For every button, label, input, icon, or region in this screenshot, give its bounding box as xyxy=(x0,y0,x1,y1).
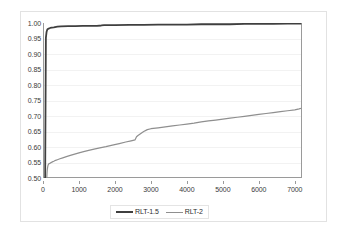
x-axis-tick-mark xyxy=(43,181,44,184)
y-axis-tick-label: 0.55 xyxy=(17,159,41,166)
series-line xyxy=(45,24,301,178)
x-axis-tick-mark xyxy=(187,181,188,184)
x-axis-tick-mark xyxy=(115,181,116,184)
y-axis-tick-label: 1.00 xyxy=(17,20,41,27)
y-axis-tick-label: 0.90 xyxy=(17,51,41,58)
x-axis-tick-mark xyxy=(79,181,80,184)
x-axis-tick-label: 5000 xyxy=(215,186,230,194)
y-axis-tick-label: 0.85 xyxy=(17,66,41,73)
y-axis-tick-label: 0.75 xyxy=(17,97,41,104)
legend-color-swatch xyxy=(166,212,183,213)
legend-color-swatch xyxy=(116,211,133,213)
chart-legend: RLT-1.5RLT-2 xyxy=(110,205,209,219)
y-axis-tick-label: 0.50 xyxy=(17,175,41,182)
y-axis-tick-label: 0.70 xyxy=(17,113,41,120)
series-lines xyxy=(43,23,302,178)
x-axis-tick-label: 7000 xyxy=(287,186,302,194)
y-axis-tick-label: 0.60 xyxy=(17,144,41,151)
x-axis-tick-label: 3000 xyxy=(143,186,158,194)
y-axis-tick-label: 0.95 xyxy=(17,35,41,42)
legend-entry[interactable]: RLT-2 xyxy=(166,208,203,216)
y-axis-tick-label: 0.65 xyxy=(17,128,41,135)
legend-entry[interactable]: RLT-1.5 xyxy=(116,208,159,216)
x-axis-tick-mark xyxy=(223,181,224,184)
x-axis-tick-label: 1000 xyxy=(71,186,86,194)
legend-label: RLT-2 xyxy=(185,208,203,216)
series-line xyxy=(47,108,302,178)
x-axis-labels: 01000200030004000500060007000 xyxy=(43,181,302,197)
x-axis-tick-label: 2000 xyxy=(107,186,122,194)
y-axis-labels: 0.500.550.600.650.700.750.800.850.900.95… xyxy=(17,23,41,178)
y-axis-tick-label: 0.80 xyxy=(17,82,41,89)
x-axis-tick-label: 4000 xyxy=(179,186,194,194)
x-axis-tick-mark xyxy=(259,181,260,184)
plot-area xyxy=(43,23,302,178)
legend-label: RLT-1.5 xyxy=(135,208,159,216)
chart-frame: 0.500.550.600.650.700.750.800.850.900.95… xyxy=(20,11,327,222)
x-axis-tick-label: 0 xyxy=(41,186,45,194)
x-axis-tick-mark xyxy=(151,181,152,184)
x-axis-tick-label: 6000 xyxy=(251,186,266,194)
x-axis-tick-mark xyxy=(295,181,296,184)
